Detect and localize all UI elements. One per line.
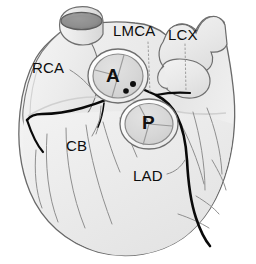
coronary-ostium-right (123, 88, 129, 94)
label-lmca: LMCA (113, 23, 155, 38)
label-rca: RCA (32, 60, 64, 75)
label-lcx: LCX (168, 27, 198, 42)
heart-illustration (0, 0, 256, 264)
pulmonary-valve-letter: P (142, 113, 155, 132)
coronary-ostium-left (130, 81, 136, 87)
aortic-valve-letter: A (106, 66, 120, 85)
heart-anatomy-figure: RCA LMCA LCX CB LAD A P (0, 0, 256, 264)
great-vessel-stump (60, 7, 103, 45)
label-lad: LAD (133, 168, 163, 183)
label-cb: CB (66, 138, 87, 153)
